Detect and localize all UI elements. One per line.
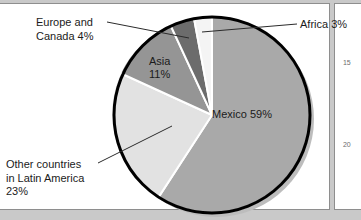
- label-other-latin-america: Other countries in Latin America 23%: [6, 158, 84, 199]
- label-asia: Asia 11%: [149, 55, 170, 81]
- label-europe-canada: Europe and Canada 4%: [36, 16, 94, 43]
- label-mexico: Mexico 59%: [212, 108, 272, 121]
- figure-page: 15 20 Europe and Canada 4% Africa 3% Oth…: [0, 0, 361, 220]
- label-africa: Africa 3%: [300, 18, 347, 32]
